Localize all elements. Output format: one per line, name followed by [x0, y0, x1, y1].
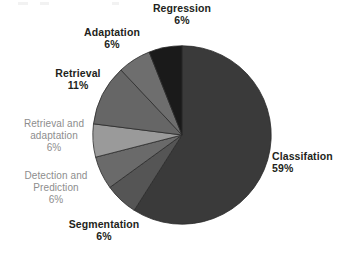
slice-label-retrieval-and-adaptation-percent: 6%	[2, 142, 106, 154]
slice-label-detection-and-prediction-percent: 6%	[2, 194, 110, 206]
slice-label-regression-name: Regression	[153, 2, 211, 14]
scan-artifact	[40, 2, 49, 5]
slice-label-retrieval-and-adaptation-line1: Retrieval and	[24, 118, 84, 129]
slice-label-retrieval-and-adaptation-line2: adaptation	[2, 130, 106, 142]
slice-label-adaptation-name: Adaptation	[84, 26, 140, 38]
slice-label-classifation-percent: 59%	[272, 162, 348, 174]
slice-label-regression-percent: 6%	[128, 14, 236, 26]
slice-label-segmentation-name: Segmentation	[69, 218, 140, 230]
slice-label-adaptation: Adaptation 6%	[60, 26, 164, 51]
scan-artifact	[18, 2, 28, 5]
slice-label-detection-and-prediction-line2: Prediction	[2, 182, 110, 194]
pie-chart-figure: Regression 6% Adaptation 6% Retrieval 11…	[0, 0, 348, 255]
slice-label-classifation-name: Classifation	[272, 150, 333, 162]
slice-label-classifation: Classifation 59%	[272, 150, 348, 175]
slice-label-segmentation-percent: 6%	[50, 230, 158, 242]
slice-label-retrieval-percent: 11%	[30, 79, 126, 91]
slice-label-detection-and-prediction: Detection and Prediction 6%	[2, 170, 110, 205]
slice-label-retrieval-name: Retrieval	[55, 67, 100, 79]
slice-label-segmentation: Segmentation 6%	[50, 218, 158, 243]
slice-label-retrieval: Retrieval 11%	[30, 67, 126, 92]
slice-label-regression: Regression 6%	[128, 2, 236, 27]
scan-artifact	[112, 2, 119, 5]
slice-label-retrieval-and-adaptation: Retrieval and adaptation 6%	[2, 118, 106, 153]
slice-label-adaptation-percent: 6%	[60, 38, 164, 50]
slice-label-detection-and-prediction-line1: Detection and	[24, 170, 87, 181]
